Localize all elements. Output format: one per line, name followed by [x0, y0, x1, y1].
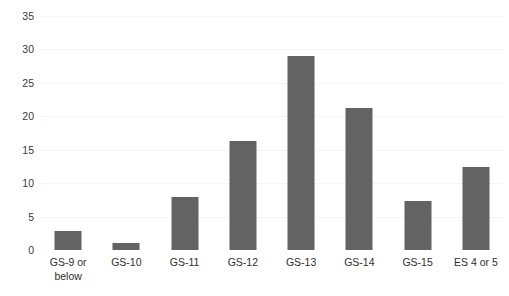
y-axis-tick-label: 10: [0, 178, 34, 188]
bar[interactable]: [288, 56, 315, 250]
bar-group: [156, 10, 214, 254]
bar-chart: 05101520253035 GS-9 or belowGS-10GS-11GS…: [0, 0, 509, 296]
bars-layer: [39, 10, 505, 254]
bar[interactable]: [171, 197, 198, 250]
y-axis-tick-label: 0: [0, 245, 34, 255]
bar-group: [447, 10, 505, 254]
x-axis-tick-label: ES 4 or 5: [445, 256, 507, 270]
x-axis-tick-label: GS-13: [270, 256, 332, 270]
bar[interactable]: [404, 201, 431, 250]
y-axis-tick-label: 25: [0, 78, 34, 88]
y-axis-tick-label: 5: [0, 212, 34, 222]
bar[interactable]: [55, 231, 82, 250]
y-axis-tick-label: 15: [0, 145, 34, 155]
x-axis: GS-9 or belowGS-10GS-11GS-12GS-13GS-14GS…: [39, 256, 505, 296]
x-axis-tick-label: GS-10: [95, 256, 157, 270]
y-axis-tick-label: 35: [0, 11, 34, 21]
x-axis-tick-label: GS-12: [212, 256, 274, 270]
bar-group: [97, 10, 155, 254]
y-axis: 05101520253035: [0, 0, 34, 296]
plot-area: [39, 10, 505, 254]
x-axis-tick-label: GS-9 or below: [37, 256, 99, 283]
bar-group: [214, 10, 272, 254]
x-axis-tick-label: GS-15: [387, 256, 449, 270]
x-axis-tick-label: GS-11: [154, 256, 216, 270]
bar-group: [272, 10, 330, 254]
bar[interactable]: [229, 141, 256, 250]
bar[interactable]: [113, 243, 140, 250]
bar[interactable]: [462, 167, 489, 250]
x-axis-tick-label: GS-14: [328, 256, 390, 270]
bar-group: [389, 10, 447, 254]
y-axis-tick-label: 30: [0, 44, 34, 54]
bar[interactable]: [346, 108, 373, 250]
bar-group: [39, 10, 97, 254]
y-axis-tick-label: 20: [0, 111, 34, 121]
bar-group: [330, 10, 388, 254]
